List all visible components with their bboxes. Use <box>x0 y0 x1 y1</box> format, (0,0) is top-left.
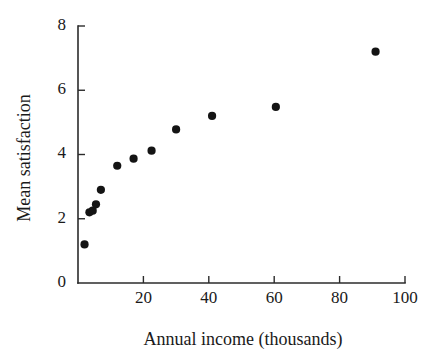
data-point <box>80 240 88 248</box>
data-point-series <box>80 48 379 249</box>
x-axis-tick-labels: 20406080100 <box>135 288 418 307</box>
y-tick-label-2: 2 <box>58 208 67 227</box>
y-tick-label-0: 0 <box>58 272 67 291</box>
data-point <box>129 155 137 163</box>
x-tick-label-100: 100 <box>392 288 418 307</box>
x-axis: 20406080100 <box>78 276 418 307</box>
x-tick-label-40: 40 <box>200 288 217 307</box>
data-point <box>147 147 155 155</box>
x-tick-label-60: 60 <box>266 288 283 307</box>
data-point <box>97 186 105 194</box>
data-point <box>208 112 216 120</box>
y-axis-tick-labels: 02468 <box>58 15 67 291</box>
data-point <box>92 200 100 208</box>
y-axis-ticks <box>78 26 85 219</box>
scatter-plot-figure: 02468 20406080100 Annual income (thousan… <box>0 0 434 361</box>
data-point <box>272 103 280 111</box>
x-axis-title: Annual income (thousands) <box>144 329 343 350</box>
y-tick-label-4: 4 <box>58 143 67 162</box>
y-tick-label-6: 6 <box>58 79 67 98</box>
data-point <box>172 125 180 133</box>
x-axis-ticks <box>143 276 405 283</box>
y-axis: 02468 <box>58 15 86 291</box>
x-tick-label-80: 80 <box>331 288 348 307</box>
x-tick-label-20: 20 <box>135 288 152 307</box>
data-point <box>113 162 121 170</box>
y-axis-title: Mean satisfaction <box>14 94 34 221</box>
y-tick-label-8: 8 <box>58 15 67 34</box>
data-point <box>371 48 379 56</box>
plot-canvas: 02468 20406080100 Annual income (thousan… <box>0 0 434 361</box>
